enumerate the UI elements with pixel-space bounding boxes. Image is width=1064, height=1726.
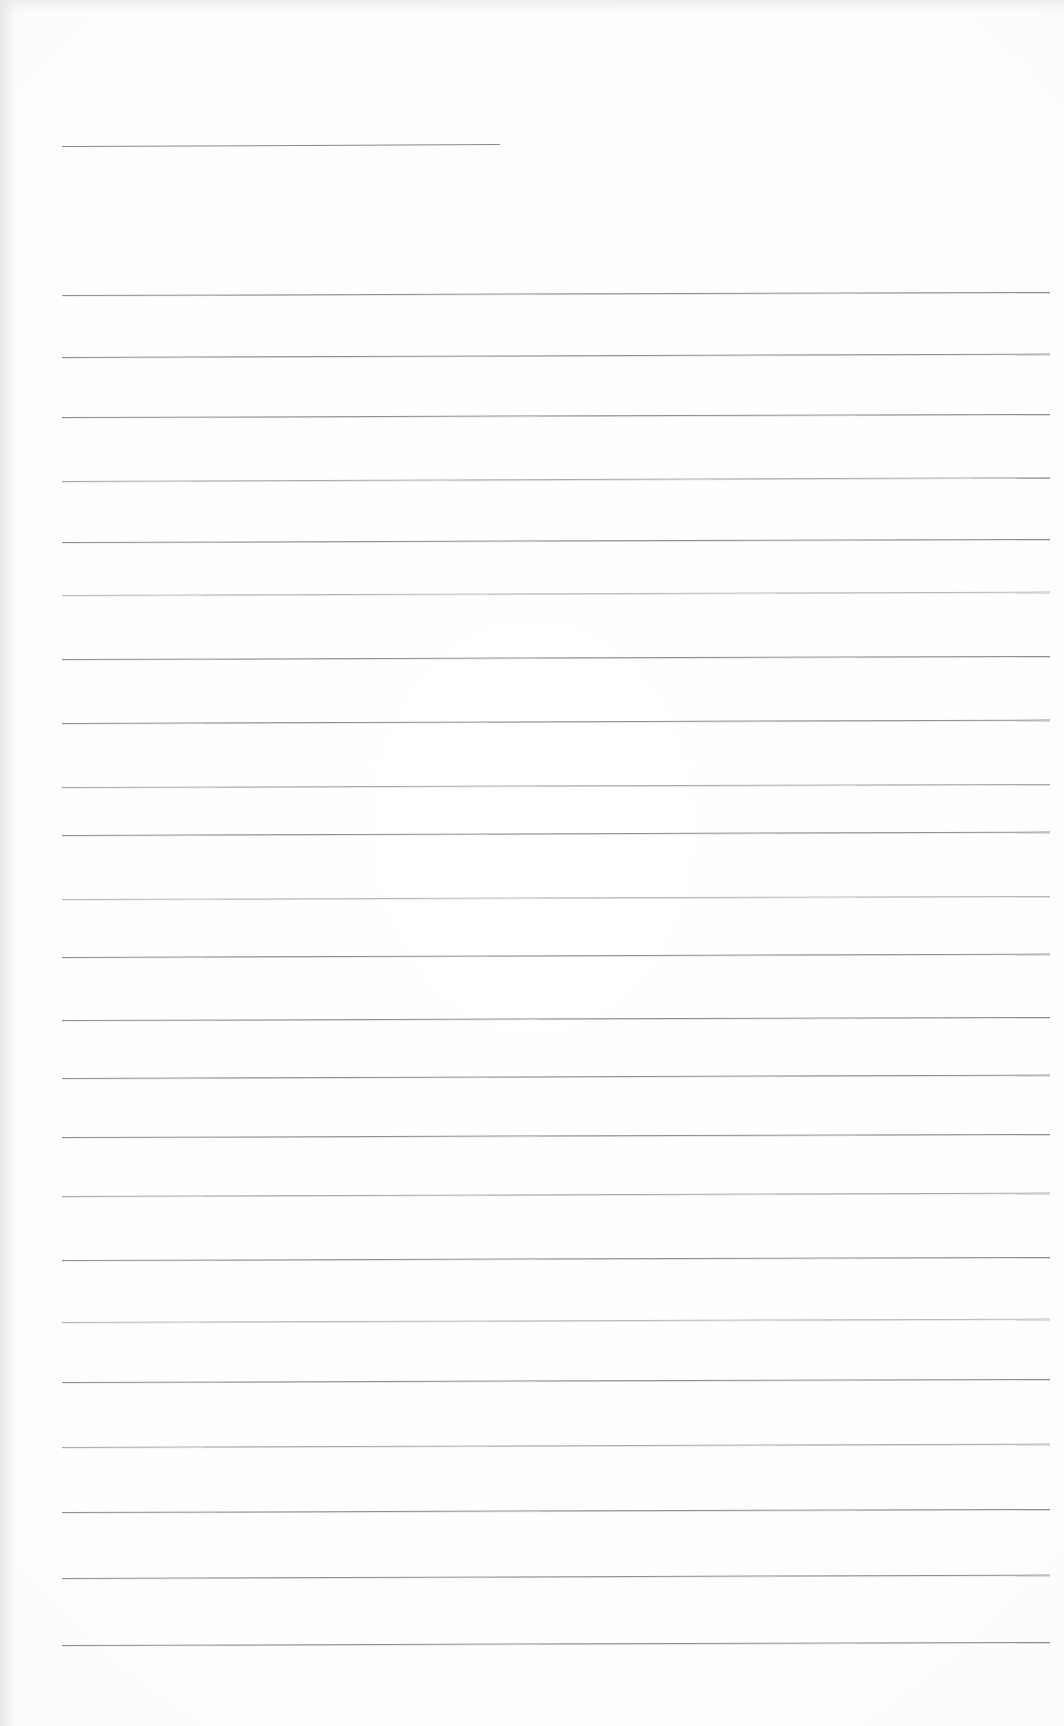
scan-edge-shadow-left (0, 0, 16, 1726)
ruled-line (62, 1642, 1050, 1646)
ruled-line (62, 1379, 1050, 1383)
ruled-line (62, 832, 1050, 836)
ruled-line (62, 896, 1050, 900)
paper-surface (0, 0, 1064, 1726)
ruled-line (62, 292, 1050, 296)
scanned-page (0, 0, 1064, 1726)
ruled-line (62, 1509, 1050, 1513)
ruled-line (62, 592, 1050, 596)
ruled-line (62, 1444, 1050, 1448)
ruled-line (62, 1319, 1050, 1323)
ruled-line (62, 656, 1050, 660)
scan-noise-overlay (0, 0, 1064, 1726)
header-rule (62, 144, 500, 147)
ruled-line (62, 477, 1050, 482)
ruled-line (62, 1193, 1050, 1197)
ruled-line (62, 354, 1050, 358)
ruled-line (62, 1257, 1050, 1261)
ruled-line (62, 1575, 1050, 1579)
ruled-line (62, 539, 1050, 543)
ruled-line (62, 1134, 1050, 1138)
ruled-line (62, 1017, 1050, 1021)
ruled-line (62, 1075, 1050, 1079)
ruled-line (62, 954, 1050, 958)
ruled-line (62, 414, 1050, 418)
ruled-line (62, 720, 1050, 724)
scan-edge-shadow-top (0, 0, 1064, 14)
ruled-line (62, 784, 1050, 788)
